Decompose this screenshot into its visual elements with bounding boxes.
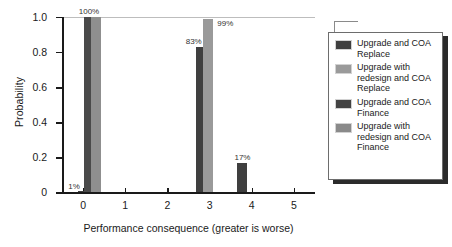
y-axis-title: Probability	[13, 57, 25, 147]
x-axis-title: Performance consequence (greater is wors…	[62, 222, 315, 234]
y-axis-tick: 0	[56, 192, 62, 193]
legend-box: Upgrade and COA ReplaceUpgrade with rede…	[328, 32, 443, 180]
bar-value-label: 99%	[217, 20, 233, 28]
x-axis-tick-label: 2	[164, 200, 170, 211]
legend-item-label: Upgrade and COA Replace	[357, 38, 438, 59]
x-axis-tick-label: 3	[207, 200, 213, 211]
legend-swatch-icon	[335, 123, 352, 133]
x-axis-tick-label: 0	[80, 200, 86, 211]
y-axis-tick-label: 0.6	[32, 82, 47, 93]
x-axis-tick-label: 5	[291, 200, 297, 211]
x-axis-tick: 5	[294, 188, 295, 194]
y-axis-tick-label: 1.0	[32, 12, 47, 23]
y-axis-tick: 0.2	[56, 157, 62, 158]
plot-area: 00.20.40.60.81.0 012345 1%100%83%99%17%	[62, 17, 315, 194]
x-axis-tick: 2	[167, 188, 168, 194]
x-axis-line	[62, 192, 315, 194]
x-axis-tick: 1	[125, 188, 126, 194]
y-axis-tick-label: 0	[41, 187, 47, 198]
bar-value-label: 1%	[68, 183, 80, 191]
bar	[203, 19, 213, 193]
bar-value-label: 83%	[186, 38, 202, 46]
legend-item-label: Upgrade with redesign and COA Replace	[357, 62, 438, 94]
legend-connector-horizontal	[334, 21, 358, 22]
bar	[237, 163, 247, 193]
bar-chart: Probability 00.20.40.60.81.0 012345 1%10…	[0, 0, 452, 247]
y-axis-tick: 0.6	[56, 87, 62, 88]
x-axis-tick-label: 4	[249, 200, 255, 211]
y-axis-tick-label: 0.8	[32, 47, 47, 58]
x-axis-tick-label: 1	[122, 200, 128, 211]
y-axis-line	[62, 17, 64, 194]
y-axis-tick: 0.4	[56, 122, 62, 123]
legend-item-label: Upgrade and COA Finance	[357, 97, 438, 118]
bar-value-label: 17%	[234, 154, 250, 162]
y-axis-tick-label: 0.2	[32, 152, 47, 163]
legend-item-label: Upgrade with redesign and COA Finance	[357, 121, 438, 153]
x-axis-tick: 4	[252, 188, 253, 194]
legend-item[interactable]: Upgrade with redesign and COA Replace	[335, 62, 438, 94]
legend-item[interactable]: Upgrade and COA Replace	[335, 38, 438, 59]
legend-item[interactable]: Upgrade and COA Finance	[335, 97, 438, 118]
bar-value-label: 100%	[79, 8, 99, 16]
y-axis-tick-label: 0.4	[32, 117, 47, 128]
legend-item[interactable]: Upgrade with redesign and COA Finance	[335, 121, 438, 153]
legend-swatch-icon	[335, 64, 352, 74]
y-axis-tick: 1.0	[56, 17, 62, 18]
y-axis-tick: 0.8	[56, 52, 62, 53]
legend-swatch-icon	[335, 40, 352, 50]
bar	[91, 17, 101, 192]
legend-swatch-icon	[335, 99, 352, 109]
